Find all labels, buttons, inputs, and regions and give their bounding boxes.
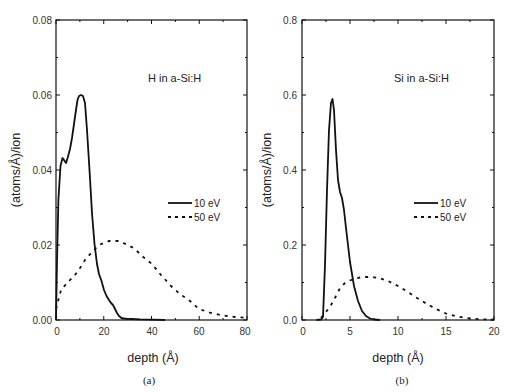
panel-a: 0.00 0.02 0.04 0.06 0.08 0 20 40 60 80 d… — [8, 15, 251, 387]
y-tick-label-b-4: 0.8 — [283, 15, 297, 26]
panel-annotation-b: Si in a-Si:H — [394, 72, 449, 84]
plot-frame-a — [56, 20, 247, 320]
panel-annotation-a: H in a-Si:H — [148, 72, 201, 84]
x-tick-label-a-3: 60 — [193, 326, 205, 337]
x-tick-label-a-0: 0 — [54, 326, 60, 337]
y-tick-label-a-4: 0.08 — [33, 15, 53, 26]
series-50ev-a — [56, 241, 247, 318]
x-tick-label-a-4: 80 — [239, 326, 251, 337]
y-tick-label-b-2: 0.4 — [283, 165, 297, 176]
y-tick-label-b-0: 0.0 — [283, 315, 297, 326]
legend-b: 10 eV 50 eV — [414, 198, 466, 223]
legend-label-50ev-a: 50 eV — [194, 212, 220, 223]
series-10ev-a — [56, 95, 165, 320]
y-axis-label-b: (atoms/Å)/ion — [259, 133, 274, 207]
x-axis-label-b: depth (Å) — [372, 350, 423, 365]
plot-frame-b — [302, 20, 494, 320]
y-axis-label-a: (atoms/Å)/ion — [8, 133, 23, 207]
x-tick-label-a-1: 20 — [98, 326, 110, 337]
x-ticks-a — [56, 20, 247, 320]
y-tick-label-a-2: 0.04 — [33, 165, 53, 176]
x-tick-label-b-1: 5 — [347, 326, 353, 337]
y-tick-label-b-1: 0.2 — [283, 240, 297, 251]
y-ticks-b — [302, 20, 494, 320]
figure: 0.00 0.02 0.04 0.06 0.08 0 20 40 60 80 d… — [0, 0, 512, 392]
panel-caption-b: (b) — [396, 374, 409, 387]
legend-a: 10 eV 50 eV — [168, 198, 220, 223]
x-axis-label-a: depth (Å) — [127, 350, 178, 365]
x-tick-label-b-2: 10 — [392, 326, 404, 337]
series-10ev-b — [316, 99, 380, 320]
legend-label-10ev-b: 10 eV — [440, 198, 466, 209]
y-tick-label-a-1: 0.02 — [33, 240, 53, 251]
x-tick-label-b-0: 0 — [300, 326, 306, 337]
x-tick-label-a-2: 40 — [146, 326, 158, 337]
y-tick-label-b-3: 0.6 — [283, 90, 297, 101]
panel-b: 0.0 0.2 0.4 0.6 0.8 0 5 10 15 20 depth (… — [259, 15, 500, 387]
y-ticks-a — [56, 20, 247, 320]
series-50ev-b — [321, 277, 494, 320]
x-tick-label-b-4: 20 — [488, 326, 500, 337]
legend-label-10ev-a: 10 eV — [194, 198, 220, 209]
panel-caption-a: (a) — [143, 374, 156, 387]
y-tick-label-a-0: 0.00 — [33, 315, 53, 326]
x-ticks-b — [302, 20, 494, 320]
y-tick-label-a-3: 0.06 — [33, 90, 53, 101]
x-tick-label-b-3: 15 — [440, 326, 452, 337]
legend-label-50ev-b: 50 eV — [440, 212, 466, 223]
